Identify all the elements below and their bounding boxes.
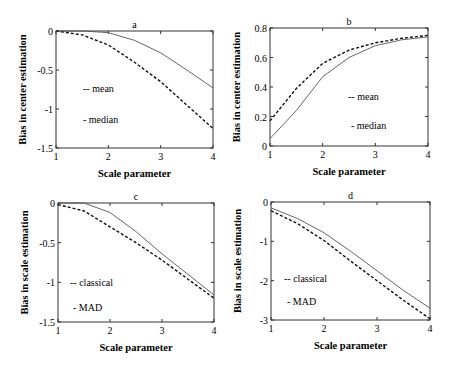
series-line-mean [270, 35, 428, 121]
y-tick-label: -1.5 [37, 143, 53, 154]
y-axis-label: Bias in center estimation [17, 34, 28, 144]
plot-frame [270, 28, 428, 146]
x-tick-label: 4 [426, 149, 431, 160]
y-tick-label: -1.5 [39, 317, 55, 328]
x-tick-label: 4 [212, 325, 217, 336]
y-tick-label: 0 [48, 26, 53, 37]
plot-frame [56, 31, 213, 148]
x-axis-label: Scale parameter [312, 166, 386, 177]
y-tick-label: -2 [260, 276, 268, 287]
x-tick-label: 4 [211, 151, 216, 162]
y-tick-label: -3 [260, 315, 268, 326]
legend-entry: - median [351, 120, 386, 131]
x-tick-label: 1 [54, 151, 59, 162]
y-tick-label: 0.6 [255, 53, 268, 64]
panel-title: c [134, 191, 139, 202]
chart-panel-a: a12340-0.5-1-1.5Scale parameterBias in c… [17, 19, 216, 179]
y-axis-label: Bias in scale estimation [232, 209, 243, 313]
legend-entry: - MAD [73, 302, 102, 313]
x-tick-label: 2 [322, 323, 327, 334]
x-axis-label: Scale parameter [98, 168, 172, 179]
x-tick-label: 1 [268, 149, 273, 160]
y-tick-label: 0 [262, 141, 267, 152]
x-tick-label: 3 [375, 323, 380, 334]
x-tick-label: 1 [269, 323, 274, 334]
legend-entry: -- mean [348, 91, 379, 102]
x-axis-label: Scale parameter [99, 342, 173, 353]
y-tick-label: 0 [50, 198, 55, 209]
x-tick-label: 3 [158, 151, 163, 162]
x-tick-label: 3 [160, 325, 165, 336]
x-axis-label: Scale parameter [314, 340, 388, 351]
legend-entry: -- classical [284, 273, 327, 284]
x-tick-label: 2 [106, 151, 111, 162]
y-tick-label: -0.5 [39, 238, 55, 249]
panel-title: b [347, 16, 352, 27]
y-tick-label: -1 [47, 277, 55, 288]
chart-panel-b: b123400.20.40.60.8Scale parameterBias in… [231, 16, 431, 177]
y-axis-label: Bias in center estimation [231, 32, 242, 142]
series-line-mean [56, 31, 213, 129]
y-tick-label: -0.5 [37, 65, 53, 76]
chart-panel-d: d12340-1-2-3Scale parameterBias in scale… [232, 190, 433, 351]
y-axis-label: Bias in scale estimation [19, 210, 30, 314]
y-tick-label: -1 [260, 236, 268, 247]
chart-panel-c: c12340-0.5-1-1.5Scale parameterBias in s… [19, 191, 217, 353]
x-tick-label: 3 [373, 149, 378, 160]
legend-entry: -- classical [70, 277, 113, 288]
panel-title: d [348, 190, 353, 201]
y-tick-label: 0 [263, 197, 268, 208]
x-tick-label: 4 [428, 323, 433, 334]
x-tick-label: 1 [56, 325, 61, 336]
legend-entry: - MAD [287, 296, 316, 307]
y-tick-label: 0.2 [255, 112, 268, 123]
series-line-median [270, 37, 428, 139]
x-tick-label: 2 [320, 149, 325, 160]
figure-canvas: a12340-0.5-1-1.5Scale parameterBias in c… [0, 0, 450, 366]
panel-title: a [132, 19, 137, 30]
legend-entry: -- mean [83, 83, 114, 94]
x-tick-label: 2 [108, 325, 113, 336]
series-line-median [56, 31, 213, 88]
y-tick-label: -1 [45, 104, 53, 115]
legend-entry: - median [83, 114, 118, 125]
y-tick-label: 0.4 [255, 82, 268, 93]
y-tick-label: 0.8 [255, 23, 268, 34]
